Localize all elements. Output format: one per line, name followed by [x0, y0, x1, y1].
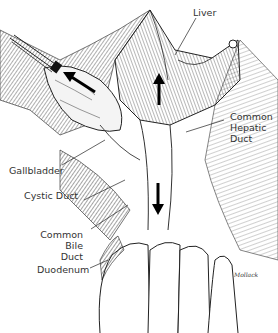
label-cystic-duct: Cystic Duct: [24, 190, 78, 201]
label-line: Common: [230, 111, 273, 122]
label-common-bile-duct: Common Bile Duct: [40, 229, 83, 262]
label-duodenum: Duodenum: [37, 264, 89, 275]
label-liver: Liver: [193, 7, 216, 18]
label-line: Hepatic: [230, 122, 273, 133]
suture-loop: [229, 40, 237, 48]
label-line: Common: [40, 229, 83, 240]
retracting-hand: [99, 236, 238, 333]
label-common-hepatic-duct: Common Hepatic Duct: [230, 111, 273, 144]
label-line: Bile: [40, 240, 83, 251]
artist-signature: Mollack: [234, 269, 258, 280]
bile-ducts: [60, 120, 172, 240]
duodenum-traction-arrow-icon: [152, 183, 164, 215]
label-gallbladder: Gallbladder: [9, 165, 64, 176]
label-line: Duct: [40, 251, 83, 262]
label-line: Duct: [230, 133, 273, 144]
